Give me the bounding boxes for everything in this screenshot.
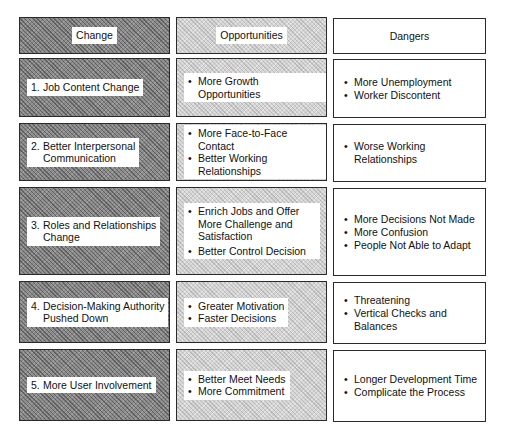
opportunities-list-3: Enrich Jobs and Offer More Challenge and… xyxy=(184,203,320,259)
opportunity-item: Better Meet Needs xyxy=(188,373,286,386)
change-text-continued: Change xyxy=(31,231,156,244)
danger-item: More Confusion xyxy=(344,226,475,239)
change-number: 1. xyxy=(31,81,43,94)
dangers-box-1: More Unemployment Worker Discontent xyxy=(333,59,486,118)
danger-item: Threatening xyxy=(344,294,485,307)
opportunities-list-5: Better Meet Needs More Commitment xyxy=(184,371,290,400)
opportunities-box-1: More Growth Opportunities xyxy=(176,58,327,117)
change-text: Roles and Relationships xyxy=(43,219,156,231)
header-change-label: Change xyxy=(72,27,117,44)
dangers-list-3: More Decisions Not Made More Confusion P… xyxy=(344,213,475,252)
opportunity-item: Greater Motivation xyxy=(188,300,284,313)
dangers-list-5: Longer Development Time Complicate the P… xyxy=(344,373,477,399)
danger-item: More Unemployment xyxy=(344,76,451,89)
header-dangers-box: Dangers xyxy=(333,18,486,54)
change-number: 2. xyxy=(31,140,43,153)
dangers-box-4: Threatening Vertical Checks and Balances xyxy=(333,282,486,344)
opportunities-box-5: Better Meet Needs More Commitment xyxy=(176,349,327,421)
change-text: More User Involvement xyxy=(43,379,152,391)
opportunities-box-3: Enrich Jobs and Offer More Challenge and… xyxy=(176,187,327,275)
change-label-2: 2.Better Interpersonal Communication xyxy=(27,138,139,167)
dangers-list-1: More Unemployment Worker Discontent xyxy=(344,76,451,102)
change-text: Job Content Change xyxy=(43,81,139,93)
change-box-2: 2.Better Interpersonal Communication xyxy=(19,123,170,181)
opportunity-item: More Face-to-Face Contact xyxy=(188,127,322,152)
change-text-continued: Communication xyxy=(31,152,135,165)
change-label-4: 4.Decision-Making Authority Pushed Down xyxy=(27,298,168,327)
danger-item: More Decisions Not Made xyxy=(344,213,475,226)
change-text-continued: Pushed Down xyxy=(31,312,164,325)
change-box-3: 3.Roles and Relationships Change xyxy=(19,187,170,275)
change-label-1: 1.Job Content Change xyxy=(27,79,143,96)
header-opportunities-label: Opportunities xyxy=(216,27,286,44)
dangers-list-2: Worse Working Relationships xyxy=(344,140,485,166)
opportunities-box-2: More Face-to-Face Contact Better Working… xyxy=(176,123,327,181)
dangers-box-3: More Decisions Not Made More Confusion P… xyxy=(333,188,486,276)
danger-item: Complicate the Process xyxy=(344,386,477,399)
change-label-3: 3.Roles and Relationships Change xyxy=(27,217,160,246)
change-box-4: 4.Decision-Making Authority Pushed Down xyxy=(19,281,170,343)
opportunity-item: More Growth Opportunities xyxy=(188,75,322,100)
change-box-1: 1.Job Content Change xyxy=(19,58,170,117)
header-change-box: Change xyxy=(19,17,170,54)
danger-item: People Not Able to Adapt xyxy=(344,239,475,252)
header-opportunities-box: Opportunities xyxy=(176,17,327,54)
opportunity-item: Better Working Relationships xyxy=(188,152,322,177)
opportunity-item: Better Control Decision xyxy=(188,245,316,258)
opportunity-item: Faster Decisions xyxy=(188,312,284,325)
opportunities-list-4: Greater Motivation Faster Decisions xyxy=(184,298,288,327)
opportunities-list-1: More Growth Opportunities xyxy=(184,73,326,102)
change-box-5: 5.More User Involvement xyxy=(19,349,170,421)
opportunities-list-2: More Face-to-Face Contact Better Working… xyxy=(184,125,326,179)
danger-item: Worse Working Relationships xyxy=(344,140,485,166)
opportunities-box-4: Greater Motivation Faster Decisions xyxy=(176,281,327,343)
danger-item: Longer Development Time xyxy=(344,373,477,386)
danger-item: Vertical Checks and Balances xyxy=(344,307,485,333)
change-number: 3. xyxy=(31,219,43,232)
header-dangers-label: Dangers xyxy=(386,28,434,45)
change-text: Decision-Making Authority xyxy=(43,300,164,312)
dangers-box-2: Worse Working Relationships xyxy=(333,124,486,182)
change-number: 4. xyxy=(31,300,43,313)
opportunity-item: More Commitment xyxy=(188,385,286,398)
dangers-list-4: Threatening Vertical Checks and Balances xyxy=(344,294,485,333)
dangers-box-5: Longer Development Time Complicate the P… xyxy=(333,350,486,422)
opportunity-item: Enrich Jobs and Offer More Challenge and… xyxy=(188,205,316,243)
change-number: 5. xyxy=(31,379,43,392)
danger-item: Worker Discontent xyxy=(344,89,451,102)
change-text: Better Interpersonal xyxy=(43,140,135,152)
change-label-5: 5.More User Involvement xyxy=(27,377,156,394)
